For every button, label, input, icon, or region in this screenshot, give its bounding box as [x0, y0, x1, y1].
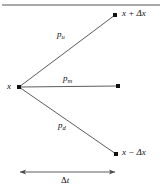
node-middle-dot — [116, 84, 120, 88]
branch-up-label: pu — [57, 30, 65, 40]
branch-middle-label: pm — [63, 74, 72, 84]
branch-middle-subscript: m — [68, 77, 73, 84]
node-origin-dot — [17, 85, 21, 89]
delta-t-label: Δt — [61, 176, 69, 185]
branch-up-subscript: u — [62, 33, 65, 40]
branch-down-line — [19, 87, 116, 154]
branch-down-label: pd — [58, 121, 66, 131]
node-down-dot — [114, 152, 118, 156]
node-up-dot — [113, 13, 117, 17]
branch-middle-line — [19, 86, 118, 87]
branch-down-subscript: d — [63, 124, 66, 131]
node-down-label: x − Δx — [122, 148, 146, 157]
trinomial-tree-figure: x x + Δx x − Δx pu pm pd Δt — [0, 0, 162, 192]
delta-t-variable: t — [67, 175, 70, 185]
node-origin-label: x — [7, 82, 11, 91]
figure-canvas — [0, 0, 162, 192]
node-up-label: x + Δx — [122, 9, 146, 18]
